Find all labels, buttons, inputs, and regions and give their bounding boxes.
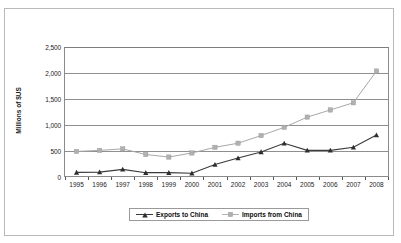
x-tick-label-1995: 1995 [69, 181, 83, 188]
x-tick-label-1998: 1998 [139, 181, 153, 188]
data-point [120, 147, 124, 151]
x-tick-label-2004: 2004 [277, 181, 291, 188]
plot-area [64, 47, 389, 177]
x-tick-mark [365, 177, 366, 180]
ghost-line-1 [19, 13, 379, 20]
legend-label-exports: Exports to China [156, 211, 208, 218]
data-point [282, 141, 287, 146]
x-tick-label-2001: 2001 [208, 181, 222, 188]
x-tick-label-1997: 1997 [115, 181, 129, 188]
x-tick-label-2002: 2002 [231, 181, 245, 188]
data-point [144, 152, 148, 156]
data-point [190, 151, 194, 155]
legend-label-imports: Imports from China [242, 211, 302, 218]
y-tick-500: 500 [50, 148, 61, 155]
x-tick-mark [388, 177, 389, 180]
x-tick-mark [134, 177, 135, 180]
data-point [328, 108, 332, 112]
data-point [213, 145, 217, 149]
x-tick-mark [88, 177, 89, 180]
x-tick-label-2005: 2005 [300, 181, 314, 188]
x-tick-mark [111, 177, 112, 180]
series-line-exports [77, 135, 377, 173]
legend-entry-imports[interactable]: Imports from China [222, 211, 302, 218]
x-tick-label-2000: 2000 [185, 181, 199, 188]
data-point [167, 155, 171, 159]
chart-figure: Millions of $US 2,500 2,000 1,500 1,000 … [0, 0, 401, 243]
y-tick-1500: 1,500 [45, 96, 61, 103]
legend-marker-exports-icon [136, 211, 153, 218]
x-tick-mark [319, 177, 320, 180]
x-tick-mark [227, 177, 228, 180]
x-tick-mark [203, 177, 204, 180]
legend-marker-imports-icon [222, 211, 239, 218]
data-point [374, 132, 379, 137]
y-axis-title: Millions of $US [15, 67, 22, 155]
y-axis-tick-labels: 2,500 2,000 1,500 1,000 500 0 [33, 47, 61, 177]
x-tick-mark [250, 177, 251, 180]
x-tick-label-1996: 1996 [92, 181, 106, 188]
data-point [374, 69, 378, 73]
series-plot [65, 48, 388, 176]
data-point [236, 141, 240, 145]
chart-legend: Exports to China Imports from China [129, 208, 309, 221]
data-point [351, 101, 355, 105]
data-point [74, 149, 78, 153]
x-tick-label-2008: 2008 [369, 181, 383, 188]
data-point [259, 133, 263, 137]
x-tick-mark [180, 177, 181, 180]
legend-entry-exports[interactable]: Exports to China [136, 211, 208, 218]
x-axis-tick-labels: 1995199619971998199920002001200220032004… [64, 181, 389, 193]
data-point [305, 115, 309, 119]
chart-frame: Millions of $US 2,500 2,000 1,500 1,000 … [4, 8, 394, 236]
y-tick-2500: 2,500 [45, 44, 61, 51]
ghost-line-2 [19, 23, 379, 30]
x-tick-label-2007: 2007 [346, 181, 360, 188]
x-tick-mark [273, 177, 274, 180]
x-tick-mark [157, 177, 158, 180]
data-point [97, 148, 101, 152]
x-tick-label-2006: 2006 [323, 181, 337, 188]
x-tick-mark [296, 177, 297, 180]
x-tick-mark [65, 177, 66, 180]
x-tick-label-2003: 2003 [254, 181, 268, 188]
x-tick-mark [342, 177, 343, 180]
series-line-imports [77, 71, 377, 157]
y-tick-0: 0 [57, 174, 61, 181]
y-tick-2000: 2,000 [45, 70, 61, 77]
data-point [282, 125, 286, 129]
y-tick-1000: 1,000 [45, 122, 61, 129]
x-tick-label-1999: 1999 [162, 181, 176, 188]
